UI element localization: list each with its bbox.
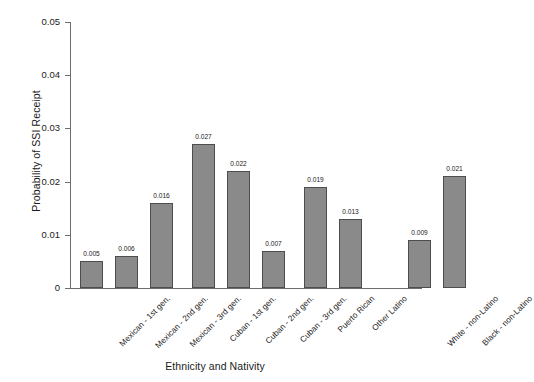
bar bbox=[80, 261, 103, 288]
bar bbox=[262, 251, 285, 288]
bar bbox=[192, 144, 215, 288]
bar-value-label: 0.007 bbox=[256, 240, 291, 247]
y-tick-mark bbox=[65, 22, 70, 23]
y-tick-label: 0.03 bbox=[18, 123, 60, 133]
bar-value-label: 0.005 bbox=[74, 250, 109, 257]
bar bbox=[150, 203, 173, 288]
bar-value-label: 0.022 bbox=[221, 160, 256, 167]
bar bbox=[339, 219, 362, 288]
bar-value-label: 0.027 bbox=[186, 133, 221, 140]
bar-value-label: 0.009 bbox=[402, 229, 437, 236]
x-axis-title: Ethnicity and Nativity bbox=[0, 360, 430, 372]
y-axis-title: Probability of SSI Receipt bbox=[30, 51, 42, 251]
y-tick-label: 0.02 bbox=[18, 177, 60, 187]
y-tick-label: 0 bbox=[18, 283, 60, 293]
bar-value-label: 0.016 bbox=[144, 192, 179, 199]
y-tick-mark bbox=[65, 75, 70, 76]
y-tick-mark bbox=[65, 235, 70, 236]
bar-value-label: 0.006 bbox=[109, 245, 144, 252]
bar bbox=[304, 187, 327, 288]
bar-value-label: 0.013 bbox=[333, 208, 368, 215]
bar bbox=[408, 240, 431, 288]
y-axis-line bbox=[70, 22, 71, 289]
x-axis-line bbox=[70, 288, 422, 289]
y-tick-mark bbox=[65, 128, 70, 129]
bar-value-label: 0.019 bbox=[298, 176, 333, 183]
bar bbox=[115, 256, 138, 288]
bar-value-label: 0.021 bbox=[437, 165, 472, 172]
bar bbox=[443, 176, 466, 288]
y-tick-mark bbox=[65, 182, 70, 183]
y-tick-label: 0.01 bbox=[18, 230, 60, 240]
bar bbox=[227, 171, 250, 288]
y-tick-mark bbox=[65, 288, 70, 289]
y-tick-label: 0.05 bbox=[18, 17, 60, 27]
y-tick-label: 0.04 bbox=[18, 70, 60, 80]
